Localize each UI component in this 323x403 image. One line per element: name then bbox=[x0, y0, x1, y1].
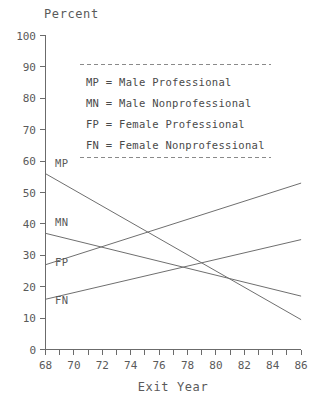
legend: MP = Male Professional MN = Male Nonprof… bbox=[80, 65, 271, 158]
y-axis-ticks bbox=[40, 36, 46, 350]
x-tick-label: 70 bbox=[67, 359, 80, 372]
x-tick-label: 76 bbox=[152, 359, 165, 372]
series-label-mp: MP bbox=[55, 157, 69, 169]
x-tick-label: 78 bbox=[181, 359, 194, 372]
series-line-fn bbox=[46, 240, 302, 300]
y-tick-label: 20 bbox=[23, 281, 36, 294]
y-tick-label: 50 bbox=[23, 187, 36, 200]
y-tick-label: 100 bbox=[16, 30, 36, 43]
legend-entry-fp: FP = Female Professional bbox=[86, 118, 245, 130]
y-tick-label: 60 bbox=[23, 155, 36, 168]
x-tick-label: 80 bbox=[209, 359, 222, 372]
data-series-group bbox=[46, 174, 302, 320]
series-line-mn bbox=[46, 233, 302, 296]
x-axis-tick-labels: 68 70 72 74 76 78 80 82 84 86 bbox=[39, 359, 308, 372]
y-tick-label: 70 bbox=[23, 124, 36, 137]
x-tick-label: 86 bbox=[294, 359, 307, 372]
y-axis-title: Percent bbox=[44, 7, 99, 21]
series-label-fn: FN bbox=[55, 294, 69, 306]
x-axis-ticks bbox=[46, 350, 302, 356]
legend-entry-fn: FN = Female Nonprofessional bbox=[86, 139, 265, 151]
x-tick-label: 74 bbox=[124, 359, 138, 372]
legend-entry-mp: MP = Male Professional bbox=[86, 76, 232, 88]
y-tick-label: 40 bbox=[23, 218, 36, 231]
y-tick-label: 30 bbox=[23, 249, 36, 262]
y-tick-label: 0 bbox=[29, 344, 36, 357]
line-chart-figure: Percent 100 90 80 70 60 50 40 30 20 10 0 bbox=[0, 0, 323, 403]
y-tick-label: 90 bbox=[23, 61, 36, 74]
x-tick-label: 68 bbox=[39, 359, 52, 372]
x-tick-label: 84 bbox=[266, 359, 280, 372]
y-axis-tick-labels: 100 90 80 70 60 50 40 30 20 10 0 bbox=[16, 30, 36, 357]
y-tick-label: 80 bbox=[23, 92, 36, 105]
x-tick-label: 72 bbox=[96, 359, 109, 372]
x-tick-label: 82 bbox=[238, 359, 251, 372]
x-axis-title: Exit Year bbox=[138, 380, 208, 394]
series-label-fp: FP bbox=[55, 256, 69, 268]
series-label-mn: MN bbox=[55, 216, 69, 228]
y-tick-label: 10 bbox=[23, 312, 36, 325]
legend-entry-mn: MN = Male Nonprofessional bbox=[86, 97, 252, 109]
